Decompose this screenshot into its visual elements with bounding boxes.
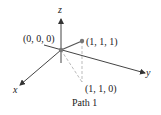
path-1-segment	[61, 41, 82, 50]
x-axis-label: x	[13, 85, 17, 95]
caption: Path 1	[72, 98, 97, 108]
x-axis	[20, 50, 61, 85]
origin-point	[59, 48, 63, 52]
point-111	[80, 39, 84, 43]
y-axis-label: y	[146, 68, 150, 78]
z-axis-label: z	[58, 5, 62, 15]
point-111-label: (1, 1, 1)	[86, 37, 118, 47]
point-110-label: (1, 1, 0)	[85, 84, 117, 94]
origin-label: (0, 0, 0)	[23, 34, 55, 44]
